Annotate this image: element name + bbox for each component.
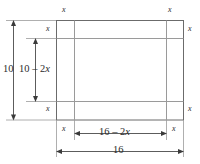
outer-rectangle bbox=[57, 21, 184, 121]
label-side-bottom-right-x: x bbox=[188, 105, 192, 113]
geometry-figure: x x x x x x x x 10 10 – 2x 16 – 2x 16 bbox=[0, 0, 200, 164]
label-bottom-right-x: x bbox=[172, 125, 176, 133]
label-width-total: 16 bbox=[113, 145, 124, 156]
label-width-inner: 16 – 2x bbox=[99, 127, 130, 138]
label-corner-top-right-x: x bbox=[168, 6, 172, 14]
label-height-inner-number: 10 – 2 bbox=[19, 63, 45, 74]
label-width-inner-number: 16 – 2 bbox=[99, 126, 125, 137]
label-height-inner: 10 – 2x bbox=[19, 64, 50, 75]
figure-svg bbox=[0, 0, 200, 164]
label-height-inner-variable: x bbox=[45, 63, 50, 74]
label-width-inner-variable: x bbox=[125, 126, 130, 137]
label-side-top-right-x: x bbox=[188, 25, 192, 33]
arrowhead-width-total-left bbox=[56, 149, 62, 154]
arrowhead-height-inner-top bbox=[33, 38, 38, 44]
label-height-total: 10 bbox=[3, 64, 14, 75]
label-corner-top-left-x: x bbox=[62, 6, 66, 14]
label-side-top-left-x: x bbox=[46, 25, 50, 33]
label-bottom-left-x: x bbox=[62, 125, 66, 133]
label-side-bottom-left-x: x bbox=[46, 105, 50, 113]
